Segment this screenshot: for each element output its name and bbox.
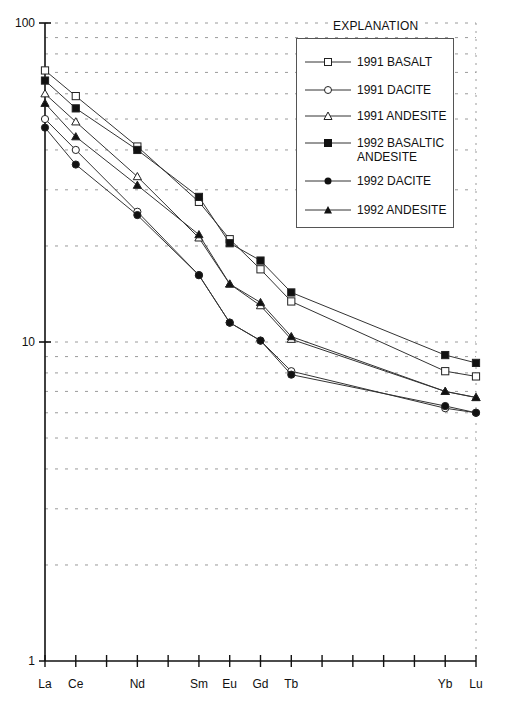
open-circle-marker-icon — [41, 115, 48, 122]
filled-square-marker-icon — [72, 105, 79, 112]
filled-square-marker-icon — [226, 240, 233, 247]
filled-triangle-marker-icon — [41, 99, 49, 106]
filled-square-marker-icon — [41, 77, 48, 84]
filled-triangle-marker-icon — [133, 181, 141, 188]
open-circle-marker-icon — [305, 83, 351, 97]
filled-circle-marker-icon — [226, 319, 233, 326]
open-circle-marker-icon — [72, 146, 79, 153]
legend-item-1992-andesite: 1992 ANDESITE — [305, 203, 446, 219]
filled-circle-marker-icon — [288, 371, 295, 378]
x-tick-label: Tb — [284, 677, 298, 691]
legend-item-1991-andesite: 1991 ANDESITE — [305, 109, 446, 125]
legend-label: 1992 DACITE — [357, 174, 431, 188]
open-square-marker-icon — [41, 67, 48, 74]
legend-label: 1992 ANDESITE — [357, 203, 446, 217]
y-tick-label: 100 — [15, 16, 35, 30]
filled-square-marker-icon — [305, 136, 351, 150]
x-tick-label: Ce — [68, 677, 84, 691]
open-square-marker-icon — [305, 55, 351, 69]
open-square-marker-icon — [442, 368, 449, 375]
legend-label: 1991 BASALT — [357, 55, 432, 69]
legend-item-1992-basaltic-andesite: 1992 BASALTIC ANDESITE — [305, 136, 444, 168]
open-square-marker-icon — [288, 298, 295, 305]
filled-triangle-marker-icon — [256, 298, 264, 305]
x-tick-label: La — [38, 677, 52, 691]
legend-label: 1992 BASALTIC ANDESITE — [357, 136, 444, 164]
x-tick-label: Eu — [222, 677, 237, 691]
open-square-marker-icon — [472, 373, 479, 380]
y-tick-label: 1 — [28, 654, 35, 668]
x-tick-label: Sm — [190, 677, 208, 691]
x-tick-label: Nd — [130, 677, 145, 691]
filled-circle-marker-icon — [472, 409, 479, 416]
filled-circle-marker-icon — [72, 161, 79, 168]
filled-circle-marker-icon — [305, 174, 351, 188]
x-tick-label: Yb — [438, 677, 453, 691]
filled-square-marker-icon — [288, 289, 295, 296]
open-square-marker-icon — [257, 266, 264, 273]
legend-item-1992-dacite: 1992 DACITE — [305, 174, 431, 190]
filled-circle-marker-icon — [442, 402, 449, 409]
filled-circle-marker-icon — [257, 337, 264, 344]
legend-item-1991-basalt: 1991 BASALT — [305, 55, 432, 71]
filled-square-marker-icon — [257, 257, 264, 264]
filled-square-marker-icon — [195, 193, 202, 200]
legend-title: EXPLANATION — [330, 19, 421, 33]
open-square-marker-icon — [72, 92, 79, 99]
filled-square-marker-icon — [472, 359, 479, 366]
filled-triangle-marker-icon — [195, 231, 203, 238]
legend-item-1991-dacite: 1991 DACITE — [305, 83, 431, 99]
open-triangle-marker-icon — [305, 109, 351, 123]
filled-triangle-marker-icon — [226, 280, 234, 287]
filled-triangle-marker-icon — [305, 203, 351, 217]
x-tick-label: Gd — [252, 677, 268, 691]
filled-circle-marker-icon — [195, 272, 202, 279]
legend-label: 1991 ANDESITE — [357, 109, 446, 123]
filled-square-marker-icon — [442, 351, 449, 358]
filled-square-marker-icon — [134, 146, 141, 153]
filled-circle-marker-icon — [134, 211, 141, 218]
y-tick-label: 10 — [22, 335, 36, 349]
filled-circle-marker-icon — [41, 124, 48, 131]
legend-box: 1991 BASALT 1991 DACITE 1991 ANDESITE 19… — [296, 38, 454, 228]
legend-label: 1991 DACITE — [357, 83, 431, 97]
x-tick-label: Lu — [469, 677, 482, 691]
